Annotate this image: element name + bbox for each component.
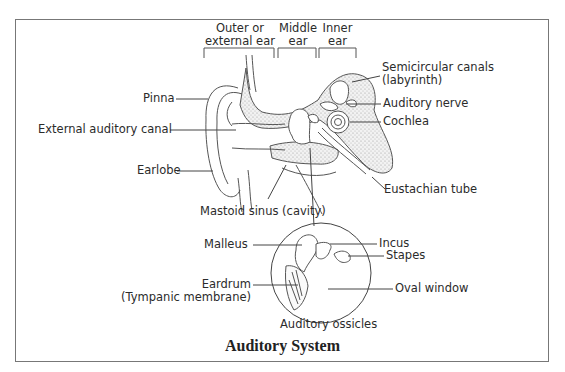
label-external-auditory-canal: External auditory canal xyxy=(38,123,172,136)
region-label-line: external ear xyxy=(195,35,285,48)
label-eardrum: Eardrum (Tympanic membrane) xyxy=(111,278,251,304)
label-pinna: Pinna xyxy=(143,92,175,105)
label-line: (labyrinth) xyxy=(382,74,494,87)
label-oval-window: Oval window xyxy=(395,282,468,295)
label-eustachian-tube: Eustachian tube xyxy=(384,183,477,196)
region-label-inner-ear: Inner ear xyxy=(315,22,360,48)
region-label-line: ear xyxy=(315,35,360,48)
label-stapes: Stapes xyxy=(386,249,425,262)
label-earlobe: Earlobe xyxy=(137,164,181,177)
label-auditory-nerve: Auditory nerve xyxy=(383,97,468,110)
label-malleus: Malleus xyxy=(204,238,248,251)
label-mastoid-sinus: Mastoid sinus (cavity) xyxy=(200,205,326,218)
label-line: (Tympanic membrane) xyxy=(111,291,251,304)
label-cochlea: Cochlea xyxy=(383,115,429,128)
middle-ear-ossicles xyxy=(289,109,319,144)
label-semicircular-canals: Semicircular canals (labyrinth) xyxy=(382,61,494,87)
label-auditory-ossicles: Auditory ossicles xyxy=(280,318,377,331)
region-brackets xyxy=(204,48,356,58)
region-label-outer-ear: Outer or external ear xyxy=(195,22,285,48)
figure-title: Auditory System xyxy=(0,337,565,355)
